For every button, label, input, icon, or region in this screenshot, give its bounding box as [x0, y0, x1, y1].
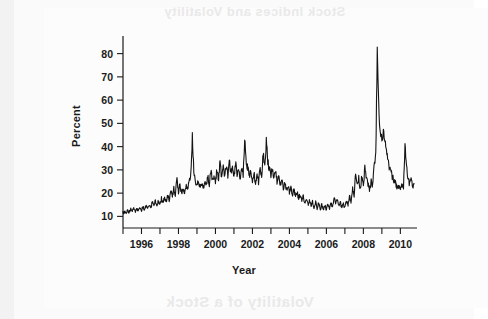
y-tick-label: 20: [101, 187, 113, 199]
x-tick-label: 2002: [241, 238, 265, 250]
y-axis-title: Percent: [70, 81, 82, 171]
x-axis-ticks: 19961998200020022004200620082010: [123, 228, 412, 250]
y-tick-label: 40: [101, 141, 113, 153]
chart-canvas: 1020304050607080 19961998200020022004200…: [69, 28, 419, 260]
x-tick-label: 2008: [352, 238, 376, 250]
x-tick-label: 2006: [315, 238, 339, 250]
y-axis-ticks: 1020304050607080: [101, 48, 123, 223]
bleed-through-text-bottom: Volatility of a Stock: [166, 293, 314, 310]
x-tick-label: 2010: [389, 238, 413, 250]
y-tick-label: 10: [101, 210, 113, 222]
bleed-through-text-top: Stock Indices and Volatility: [164, 4, 345, 19]
y-tick-label: 70: [101, 71, 113, 83]
page-inner-surface: Stock Indices and Volatility Volatility …: [14, 0, 474, 319]
x-tick-label: 1996: [130, 238, 154, 250]
y-tick-label: 60: [101, 94, 113, 106]
y-tick-label: 80: [101, 48, 113, 60]
x-tick-label: 2000: [204, 238, 228, 250]
y-tick-label: 50: [101, 117, 113, 129]
series-line: [123, 47, 414, 214]
volatility-line-chart: 1020304050607080 19961998200020022004200…: [69, 28, 419, 290]
x-axis-title: Year: [69, 264, 419, 276]
data-series-lines: [123, 47, 414, 214]
x-tick-label: 1998: [167, 238, 191, 250]
x-tick-label: 2004: [278, 238, 302, 250]
y-tick-label: 30: [101, 164, 113, 176]
